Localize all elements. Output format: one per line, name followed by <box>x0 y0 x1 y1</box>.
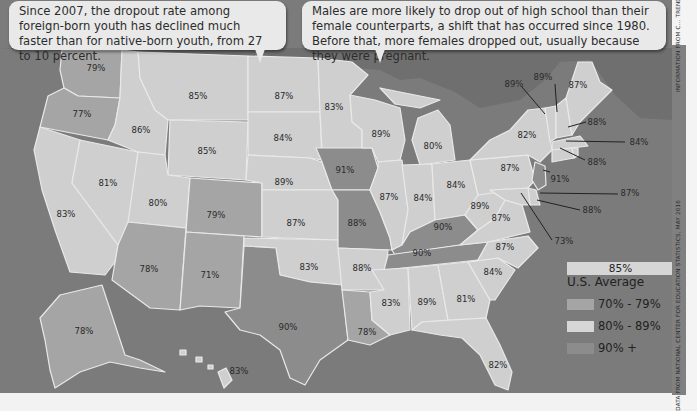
credit-data-source: DATA FROM NATIONAL CENTER FOR EDUCATION … <box>675 200 681 411</box>
label-al: 89% <box>418 297 437 307</box>
leader-md <box>537 200 580 210</box>
label-mt: 85% <box>189 91 208 101</box>
label-wi: 89% <box>372 129 391 139</box>
credit-information-source: INFORMATION FROM C... TRENDS DATABANK, 2… <box>675 4 681 92</box>
label-mi: 80% <box>424 141 443 151</box>
label-la: 78% <box>358 327 377 337</box>
label-de: 87% <box>621 188 640 198</box>
legend-label: 70% - 79% <box>598 297 661 311</box>
label-vt: 89% <box>505 79 524 89</box>
state-ct <box>552 148 574 162</box>
label-or: 77% <box>73 109 92 119</box>
callout-foreign-born: Since 2007, the dropout rate among forei… <box>9 1 286 50</box>
label-ak: 78% <box>75 326 94 336</box>
label-hi: 83% <box>230 366 249 376</box>
label-ut: 80% <box>149 198 168 208</box>
label-ct: 88% <box>588 157 607 167</box>
legend-label: 90% + <box>598 341 637 355</box>
label-ma: 88% <box>588 117 607 127</box>
legend-swatch <box>567 299 594 310</box>
label-az: 78% <box>140 264 159 274</box>
label-nc: 87% <box>496 242 515 252</box>
label-sc: 84% <box>484 267 503 277</box>
label-id: 86% <box>132 125 151 135</box>
label-in: 84% <box>414 193 433 203</box>
label-ny: 82% <box>518 130 537 140</box>
label-sd: 84% <box>274 133 293 143</box>
label-nh: 89% <box>534 72 553 82</box>
label-mn: 83% <box>325 102 344 112</box>
state-fl <box>412 318 512 390</box>
callout-tail <box>255 49 265 63</box>
hawaii-islands <box>180 350 213 369</box>
legend-item-70-79: 70% - 79% <box>567 297 674 311</box>
label-mo: 88% <box>348 218 367 228</box>
label-md: 88% <box>583 205 602 215</box>
label-co: 79% <box>207 210 226 220</box>
state-mi <box>412 110 455 165</box>
label-va: 87% <box>492 213 511 223</box>
label-pa: 87% <box>501 163 520 173</box>
legend-item-80-89: 80% - 89% <box>567 319 674 333</box>
state-co <box>186 178 262 237</box>
label-oh: 84% <box>447 180 466 190</box>
leader-de <box>540 193 618 194</box>
label-ks: 87% <box>287 218 306 228</box>
label-me: 87% <box>569 80 588 90</box>
label-ne: 89% <box>275 177 294 187</box>
legend-label: 80% - 89% <box>598 319 661 333</box>
label-ga: 81% <box>457 294 476 304</box>
label-wy: 85% <box>198 146 217 156</box>
label-ca: 83% <box>57 209 76 219</box>
legend-item-90-plus: 90% + <box>567 341 674 355</box>
label-ok: 83% <box>300 262 319 272</box>
state-ny <box>470 108 552 162</box>
label-wa: 79% <box>87 63 106 73</box>
label-nd: 87% <box>275 91 294 101</box>
legend-average-label: U.S. Average <box>567 275 674 289</box>
label-dc: 73% <box>555 236 574 246</box>
callout-tail <box>375 49 385 63</box>
label-fl: 82% <box>489 360 508 370</box>
label-ri: 84% <box>630 137 649 147</box>
label-il: 87% <box>380 192 399 202</box>
state-nj <box>532 162 546 190</box>
label-tn: 90% <box>413 248 432 258</box>
bottom-margin <box>0 393 697 409</box>
label-tx: 90% <box>279 322 298 332</box>
label-nv: 81% <box>99 178 118 188</box>
state-ks <box>262 190 338 240</box>
label-nm: 71% <box>201 270 220 280</box>
legend-swatch <box>567 343 594 354</box>
label-ia: 91% <box>336 165 355 175</box>
state-mt <box>138 52 248 120</box>
label-nj: 91% <box>551 174 570 184</box>
label-ms: 83% <box>382 298 401 308</box>
legend: 85% U.S. Average 70% - 79% 80% - 89% 90%… <box>567 262 674 355</box>
legend-average-bar: 85% <box>567 262 674 275</box>
label-ky: 90% <box>434 222 453 232</box>
callout-males: Males are more likely to drop out of hig… <box>302 1 666 50</box>
legend-swatch <box>567 321 594 332</box>
label-ar: 88% <box>353 263 372 273</box>
label-wv: 89% <box>471 201 490 211</box>
state-nd <box>248 56 320 112</box>
